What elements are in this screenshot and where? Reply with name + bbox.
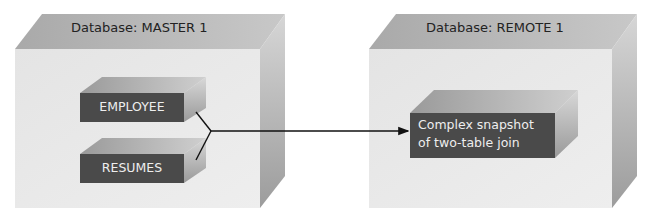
snapshot-label: Complex snapshot of two-table join <box>418 116 558 152</box>
snapshot-label-line1: Complex snapshot <box>418 116 558 134</box>
snapshot-label-line2: of two-table join <box>418 134 558 152</box>
remote-database-label: Database: REMOTE 1 <box>426 20 564 35</box>
master-database-label: Database: MASTER 1 <box>71 20 208 35</box>
employee-table-label: EMPLOYEE <box>80 99 184 114</box>
resumes-table-label: RESUMES <box>80 160 184 175</box>
